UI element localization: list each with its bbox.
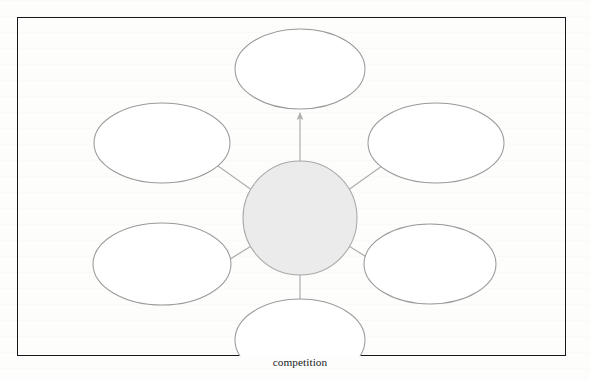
ellipse-maintaining-favourable-balance-of-trade[interactable] bbox=[364, 224, 496, 304]
figure-caption bbox=[19, 367, 579, 380]
ellipse-encouraging-direct-foreign-investment[interactable] bbox=[368, 103, 504, 183]
ellipse-maintaining-adequate-levels-of-domestic-employment[interactable] bbox=[93, 223, 231, 305]
radial-diagram bbox=[17, 17, 566, 356]
ellipse-offering-subsidies-to-compete-globally[interactable] bbox=[94, 103, 230, 183]
hub-circle[interactable] bbox=[243, 161, 357, 275]
ellipse-protecting-against-unfair-global-competition[interactable] bbox=[235, 299, 365, 356]
ellipse-nurturing-young-industries[interactable] bbox=[235, 29, 365, 109]
figure-page: Government Protection of Canadian Busine… bbox=[0, 0, 589, 380]
